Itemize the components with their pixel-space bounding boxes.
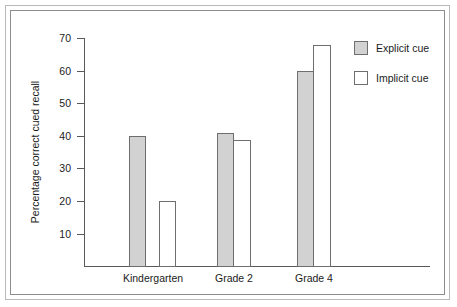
y-tick-40: 40: [29, 136, 85, 137]
y-tick-label-50: 50: [31, 98, 71, 109]
y-tick-mark-30: [77, 168, 85, 169]
y-tick-60: 60: [29, 71, 85, 72]
bar-kindergarten-implicit: [159, 201, 176, 267]
bar-grade2-implicit: [233, 140, 251, 267]
y-tick-mark-20: [77, 201, 85, 202]
x-axis-label-kindergarten: Kindergarten: [107, 272, 199, 284]
y-axis-line: [84, 38, 85, 267]
y-tick-mark-60: [77, 71, 85, 72]
y-tick-20: 20: [29, 201, 85, 202]
chart-legend: Explicit cue Implicit cue: [354, 39, 429, 99]
y-axis-title: Percentage correct cued recall: [29, 52, 41, 252]
legend-swatch-implicit-cue: [354, 71, 368, 85]
y-tick-label-10: 10: [31, 229, 71, 240]
y-tick-label-20: 20: [31, 196, 71, 207]
x-axis-label-grade4: Grade 4: [268, 272, 360, 284]
y-tick-70: 70: [29, 38, 85, 39]
y-tick-10: 10: [29, 234, 85, 235]
y-tick-mark-40: [77, 136, 85, 137]
y-tick-label-70: 70: [31, 33, 71, 44]
y-tick-label-60: 60: [31, 66, 71, 77]
y-tick-label-40: 40: [31, 131, 71, 142]
legend-label-explicit-cue: Explicit cue: [376, 42, 429, 54]
legend-label-implicit-cue: Implicit cue: [376, 72, 429, 84]
bar-grade4-explicit: [297, 71, 314, 267]
bar-kindergarten-explicit: [129, 136, 146, 267]
bar-grade2-explicit: [217, 133, 234, 267]
legend-item-implicit-cue: Implicit cue: [354, 69, 429, 87]
figure-outer-border: Percentage correct cued recall 70 60 50 …: [5, 5, 450, 300]
y-tick-30: 30: [29, 168, 85, 169]
y-tick-50: 50: [29, 103, 85, 104]
bar-grade4-implicit: [313, 45, 331, 267]
x-axis-label-grade2: Grade 2: [188, 272, 280, 284]
figure-inner-border: Percentage correct cued recall 70 60 50 …: [10, 10, 445, 295]
legend-item-explicit-cue: Explicit cue: [354, 39, 429, 57]
y-tick-mark-10: [77, 234, 85, 235]
plot-area: Percentage correct cued recall 70 60 50 …: [11, 11, 448, 298]
y-tick-mark-70: [77, 38, 85, 39]
y-tick-mark-50: [77, 103, 85, 104]
y-tick-label-30: 30: [31, 163, 71, 174]
legend-swatch-explicit-cue: [354, 41, 368, 55]
